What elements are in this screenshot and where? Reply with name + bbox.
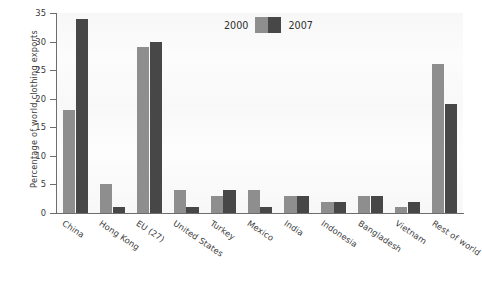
- y-axis-tick: [50, 99, 56, 100]
- y-axis-tick: [50, 70, 56, 71]
- legend-swatch-2007-icon: [268, 17, 281, 33]
- y-axis-line: [56, 13, 57, 214]
- legend-swatch-2000-icon: [255, 17, 268, 33]
- bar-2007-mexico: [260, 207, 272, 213]
- x-axis-tick-label: Turkey: [208, 218, 237, 242]
- bar-2007-india: [297, 196, 309, 213]
- y-axis-tick: [50, 156, 56, 157]
- y-axis-tick-label: 0: [22, 208, 46, 218]
- x-axis-tick-label: India: [282, 218, 305, 238]
- x-axis-tick-label: China: [61, 218, 87, 240]
- y-axis-tick-label: 30: [22, 37, 46, 47]
- bar-2007-eu-27: [150, 42, 162, 213]
- bar-2000-bangladesh: [358, 196, 370, 213]
- x-axis-tick-label: Indonesia: [319, 218, 359, 249]
- y-axis-tick: [50, 13, 56, 14]
- x-axis-line: [56, 213, 464, 214]
- chart-legend: 2000 2007: [224, 16, 313, 34]
- bar-2007-bangladesh: [371, 196, 383, 213]
- x-axis-tick-label: EU (27): [135, 218, 167, 244]
- bar-2007-rest-of-world: [445, 104, 457, 213]
- legend-label-2007: 2007: [288, 20, 312, 31]
- plot-area: [57, 13, 463, 213]
- y-axis-tick-label: 25: [22, 65, 46, 75]
- x-axis-tick-label: Rest of world: [430, 218, 482, 258]
- bar-2000-mexico: [248, 190, 260, 213]
- bar-2007-united-states: [186, 207, 198, 213]
- y-axis-tick: [50, 127, 56, 128]
- bar-2000-hong-kong: [100, 184, 112, 213]
- y-axis-tick: [50, 42, 56, 43]
- bar-2000-rest-of-world: [432, 64, 444, 213]
- y-axis-tick-label: 10: [22, 151, 46, 161]
- bar-2007-indonesia: [334, 202, 346, 213]
- bar-2000-vietnam: [395, 207, 407, 213]
- bar-2000-india: [284, 196, 296, 213]
- bar-2007-china: [76, 19, 88, 213]
- x-axis-tick-label: Mexico: [245, 218, 275, 243]
- bar-2007-vietnam: [408, 202, 420, 213]
- legend-label-2000: 2000: [224, 20, 248, 31]
- bar-2007-hong-kong: [113, 207, 125, 213]
- bar-2000-china: [63, 110, 75, 213]
- bar-2000-indonesia: [321, 202, 333, 213]
- y-axis-tick-label: 5: [22, 179, 46, 189]
- y-axis-tick-label: 35: [22, 8, 46, 18]
- bar-2000-eu-27: [137, 47, 149, 213]
- bar-2007-turkey: [223, 190, 235, 213]
- y-axis-tick-label: 15: [22, 122, 46, 132]
- bar-2000-united-states: [174, 190, 186, 213]
- y-axis-tick: [50, 213, 56, 214]
- y-axis-tick-label: 20: [22, 94, 46, 104]
- y-axis-tick: [50, 184, 56, 185]
- bar-2000-turkey: [211, 196, 223, 213]
